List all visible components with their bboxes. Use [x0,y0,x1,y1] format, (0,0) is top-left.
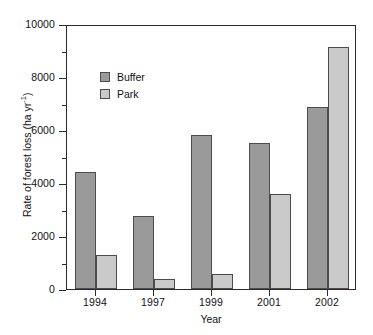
y-axis-title-suffix: ) [21,92,33,96]
y-tick-mark [59,131,66,132]
bar-park-1994 [96,255,117,289]
y-axis-title-exponent: -1 [19,96,28,103]
bar-group [75,26,117,289]
bar-buffer-1999 [191,135,212,289]
y-tick-mark [59,25,66,26]
y-tick-label: 0 [0,283,55,295]
plot-area [66,25,356,290]
x-tick-label-2002: 2002 [297,296,357,308]
legend-swatch-park-icon [100,89,110,99]
bar-park-1999 [212,274,233,289]
y-tick-mark [59,78,66,79]
legend-label: Park [117,88,139,100]
legend: BufferPark [100,68,145,102]
bar-park-1997 [154,279,175,289]
x-tick-label-1997: 1997 [123,296,183,308]
legend-label: Buffer [117,71,145,83]
bar-chart-figure: 0200040006000800010000 19941997199920012… [0,0,373,335]
bar-group [133,26,175,289]
x-tick-label-1994: 1994 [65,296,125,308]
x-tick-label-1999: 1999 [181,296,241,308]
bar-group [191,26,233,289]
y-tick-mark [59,290,66,291]
y-tick-label: 10000 [0,18,55,30]
bar-buffer-1994 [75,172,96,289]
bar-buffer-2001 [249,143,270,289]
bar-buffer-2002 [307,107,328,289]
bars-layer [67,26,355,289]
y-tick-mark [59,184,66,185]
y-axis-title: Rate of forest loss (ha yr-1) [19,40,33,270]
legend-item-buffer: Buffer [100,68,145,85]
bar-group [249,26,291,289]
bar-park-2001 [270,194,291,289]
y-axis-title-text: Rate of forest loss (ha yr [21,103,33,217]
x-tick-label-2001: 2001 [239,296,299,308]
bar-park-2002 [328,47,349,289]
bar-group [307,26,349,289]
legend-item-park: Park [100,85,145,102]
x-axis-title: Year [66,313,356,325]
y-tick-mark [59,237,66,238]
bar-buffer-1997 [133,216,154,289]
legend-swatch-buffer-icon [100,72,110,82]
